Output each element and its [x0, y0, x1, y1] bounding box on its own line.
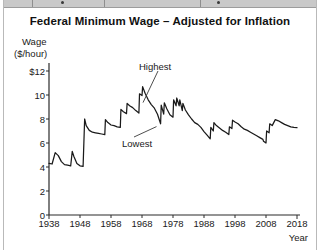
- annotation-leader-highest: [143, 71, 158, 103]
- annotation-lowest: Lowest: [122, 138, 152, 149]
- annotation-highest: Highest: [139, 61, 171, 72]
- chart-plot-area: [0, 0, 320, 250]
- annotation-leader-lowest: [134, 127, 157, 137]
- data-series-line: [49, 87, 297, 167]
- chart-screen: Federal Minimum Wage – Adjusted for Infl…: [0, 0, 320, 250]
